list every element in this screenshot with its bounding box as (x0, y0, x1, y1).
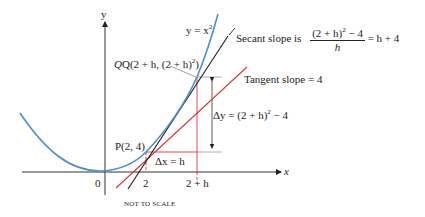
secant-fraction: (2 + h)2 − 4 h (310, 27, 365, 53)
delta-x-label: Δx = h (155, 156, 185, 167)
secant-leader (229, 28, 235, 35)
tick-label-2-plus-h: 2 + h (186, 178, 209, 189)
tick-label-2: 2 (143, 178, 149, 189)
secant-slope-label: Secant slope is (2 + h)2 − 4 h = h + 4 (236, 27, 399, 53)
tangent-line (116, 67, 247, 188)
curve-label: y = x2 (186, 24, 212, 36)
not-to-scale-note: NOT TO SCALE (124, 201, 175, 208)
origin-label: 0 (95, 178, 101, 189)
point-q-label: QQ(2 + h, (2 + h)2) (114, 58, 199, 70)
point-p-label: P(2, 4) (115, 141, 145, 152)
x-axis-label: x (284, 166, 289, 177)
y-axis-label: y (101, 9, 107, 20)
tangent-slope-label: Tangent slope = 4 (244, 74, 322, 85)
delta-y-label: Δy = (2 + h)2 − 4 (213, 109, 288, 121)
